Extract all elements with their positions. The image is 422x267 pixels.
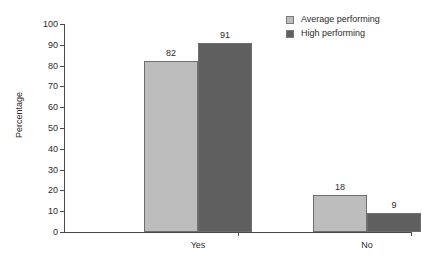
y-axis-tick-label: 100 [43, 19, 58, 29]
bar [313, 195, 367, 232]
y-axis-tick [60, 190, 64, 191]
y-axis-tick [60, 170, 64, 171]
legend-swatch-average-performing [286, 16, 294, 24]
y-axis-tick-label: 50 [48, 123, 58, 133]
bar-chart: Average performing High performing Perce… [0, 0, 422, 267]
bar-value-label: 82 [166, 48, 176, 58]
y-axis-tick [60, 86, 64, 87]
y-axis-tick-label: 60 [48, 102, 58, 112]
y-axis-tick [60, 211, 64, 212]
bar [144, 61, 198, 232]
y-axis-tick [60, 66, 64, 67]
y-axis-tick-label: 40 [48, 144, 58, 154]
y-axis-tick-label: 70 [48, 81, 58, 91]
x-axis-category-label: No [361, 240, 373, 250]
y-axis-tick-label: 90 [48, 40, 58, 50]
bar [198, 43, 252, 232]
y-axis-tick [60, 232, 64, 233]
x-axis-tick [238, 232, 239, 236]
y-axis-tick-label: 0 [53, 227, 58, 237]
y-axis-line [64, 24, 65, 232]
x-axis-category-label: Yes [191, 240, 206, 250]
bar-value-label: 9 [391, 200, 396, 210]
plot-area: 0102030405060708090100 8291189 YesNo [64, 24, 411, 232]
y-axis-tick [60, 107, 64, 108]
y-axis-tick [60, 149, 64, 150]
y-axis-tick-label: 10 [48, 206, 58, 216]
bar-value-label: 91 [220, 30, 230, 40]
y-axis-tick-label: 80 [48, 61, 58, 71]
y-axis-tick-label: 20 [48, 185, 58, 195]
y-axis-title: Percentage [14, 70, 24, 160]
x-axis-tick [411, 232, 412, 236]
y-axis-tick [60, 24, 64, 25]
y-axis-tick [60, 45, 64, 46]
y-axis-tick-label: 30 [48, 165, 58, 175]
bar-value-label: 18 [335, 182, 345, 192]
y-axis-tick [60, 128, 64, 129]
bar [367, 213, 421, 232]
